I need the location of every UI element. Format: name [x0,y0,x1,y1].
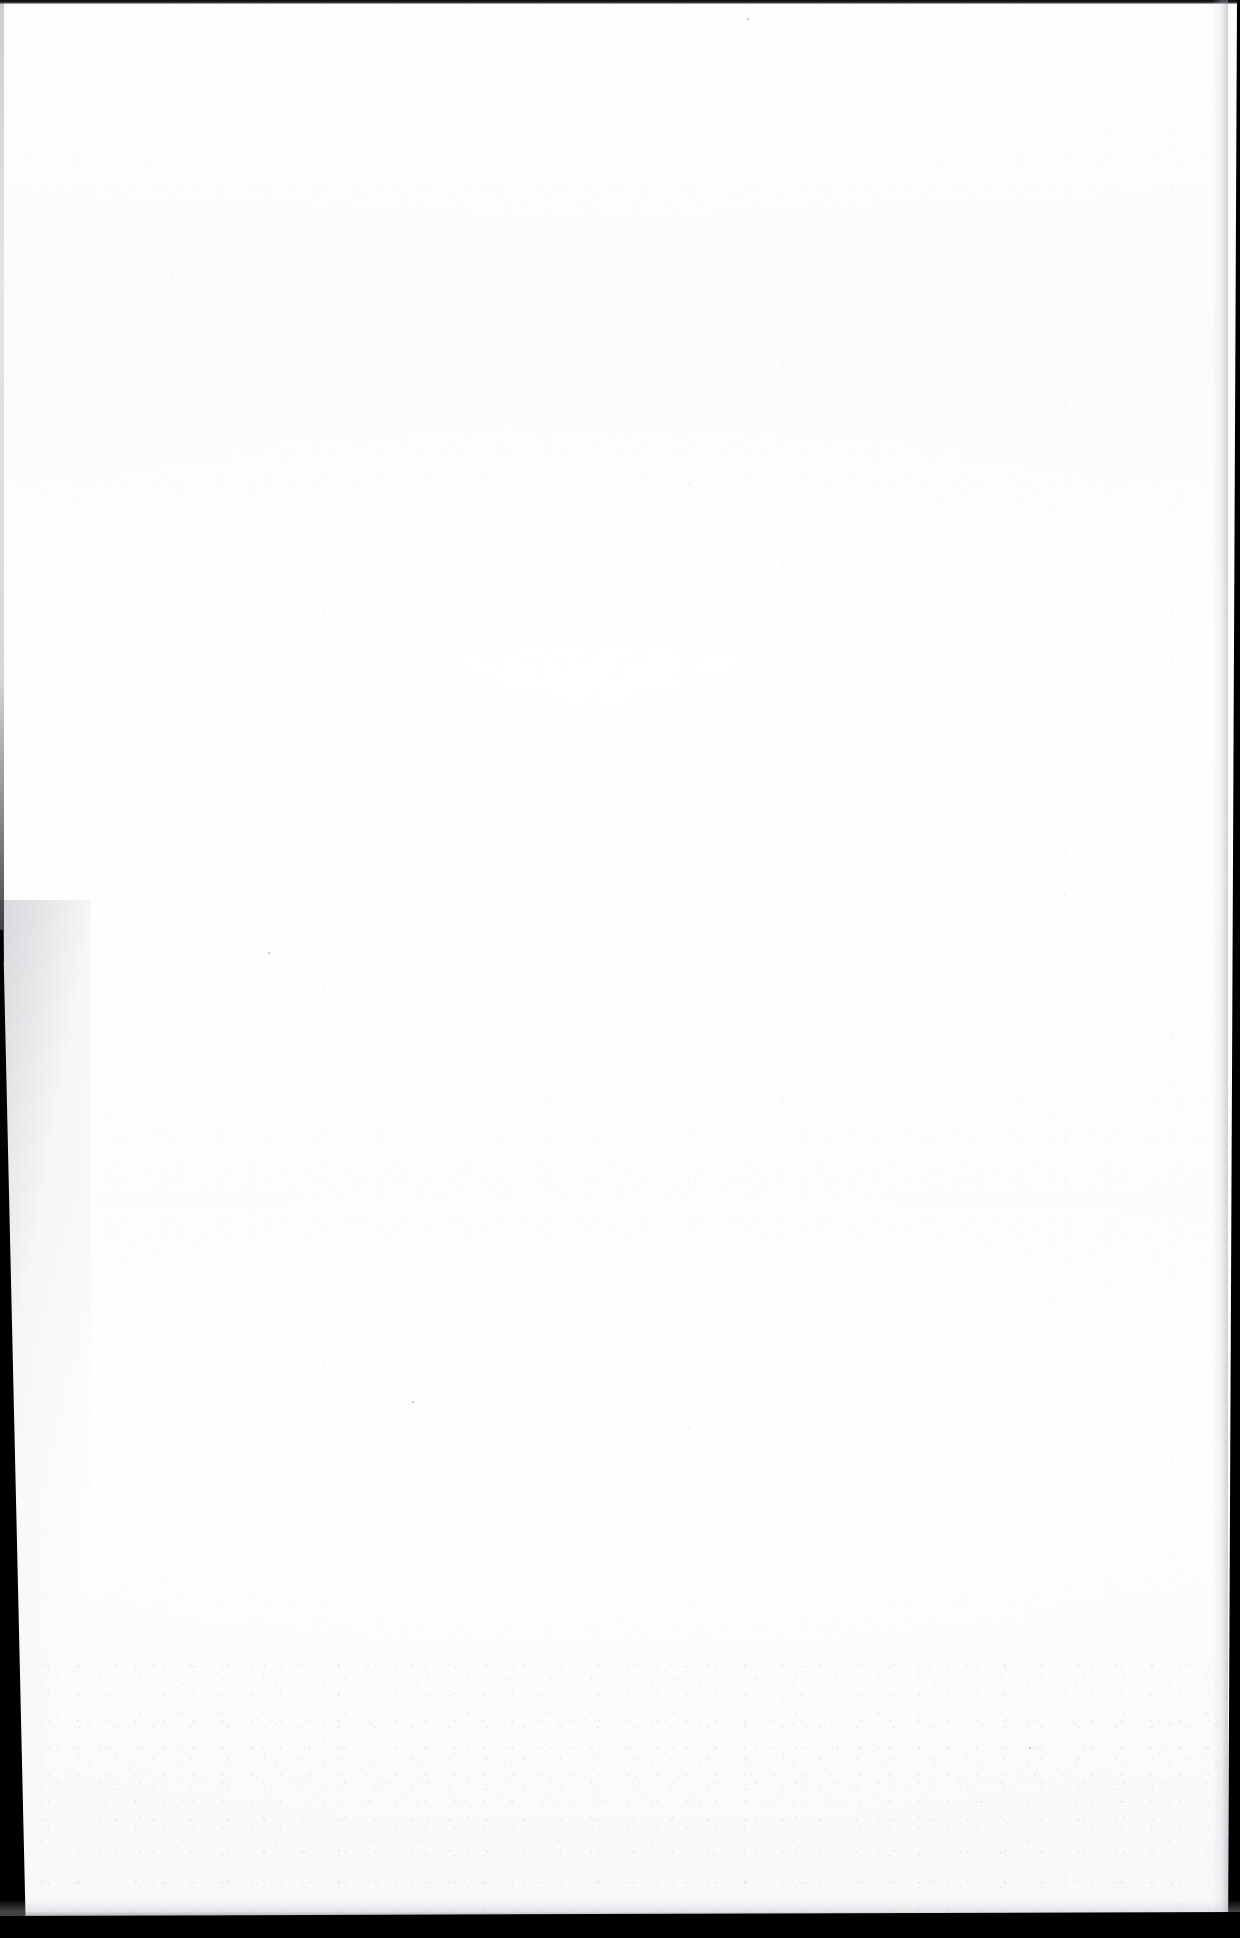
right-edge-shadow [1212,0,1228,1938]
left-edge-hairline [0,2,4,962]
bottom-edge-band [0,1912,1240,1938]
scanned-page [0,0,1240,1938]
page-content-area [70,70,1180,1860]
top-edge-rule [0,0,1240,4]
